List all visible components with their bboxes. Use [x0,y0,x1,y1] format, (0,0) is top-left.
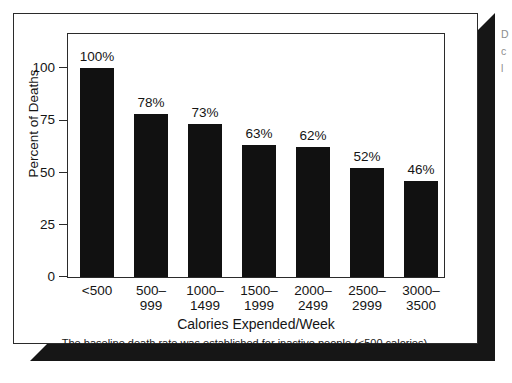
x-axis-tick-label-line1: <500 [82,283,112,298]
bar [242,145,276,277]
y-axis-tick-label: 50 [21,166,55,180]
bar-value-label: 100% [65,50,129,64]
x-axis-tick-label-line2: 3500 [389,298,453,313]
y-axis-tick [59,224,67,225]
page-edge-text-fragment: l [501,60,512,77]
bar [80,68,114,277]
bar-value-label: 52% [335,150,399,164]
y-axis-tick-label: 100 [21,61,55,75]
figure-shadow-bevel-top-right [478,13,495,30]
figure-container: Percent of Deaths 0255075100 <500500–999… [0,0,512,383]
bar-value-label: 73% [173,106,237,120]
bar [296,147,330,277]
bar-value-label: 46% [389,163,453,177]
y-axis-tick-label: 25 [21,218,55,232]
x-axis-tick-label-line1: 1500– [240,283,278,298]
figure-caption: The baseline death rate was established … [30,337,462,349]
y-axis-tick [59,276,67,277]
bar [404,181,438,277]
bar [188,124,222,277]
x-axis-tick-label-line1: 2000– [294,283,332,298]
y-axis-tick [59,172,67,173]
bar [350,168,384,277]
x-axis-title: Calories Expended/Week [67,316,445,332]
figure-shadow-right [478,13,495,361]
y-axis-tick-label: 0 [21,270,55,284]
x-axis-tick-label-line1: 500– [136,283,166,298]
x-axis-tick-label-line1: 1000– [186,283,224,298]
x-axis-tick-label-line1: 3000– [402,283,440,298]
bar [134,114,168,277]
y-axis-tick [59,67,67,68]
page-edge-text-fragment: c [501,43,512,60]
x-axis-tick-label: 3000–3500 [389,283,453,313]
y-axis-tick-label: 75 [21,113,55,127]
y-axis-tick [59,120,67,121]
x-axis-tick-label-line1: 2500– [348,283,386,298]
page-edge-text-fragment: D [501,26,512,43]
page-edge-text: Dcl [501,26,512,77]
bar-value-label: 62% [281,129,345,143]
